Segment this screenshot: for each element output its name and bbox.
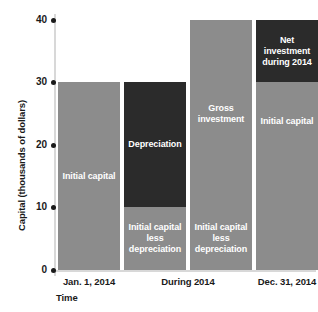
bar-initial-capital: Initial capital (58, 82, 120, 270)
segment-label-net-investment: Net investment during 2014 (258, 35, 316, 68)
segment-label-depreciation: Depreciation (126, 139, 184, 150)
x-axis-line (54, 270, 316, 272)
y-axis-title: Capital (thousands of dollars) (16, 61, 27, 271)
bar-gross-investment: Gross investment Initial capital less de… (190, 20, 252, 270)
segment-label-initial-capital: Initial capital (60, 171, 118, 182)
segment-label-gross-investment: Gross investment (192, 103, 250, 125)
bar-depreciation: Depreciation Initial capital less deprec… (124, 82, 186, 270)
y-tick-dot-10 (51, 205, 56, 210)
segment-depreciation: Depreciation (124, 82, 186, 207)
x-label-jan-1-2014: Jan. 1, 2014 (58, 276, 120, 287)
y-tick-label-10: 10 (36, 202, 47, 212)
segment-gross-investment: Gross investment (190, 20, 252, 207)
segment-net-investment: Net investment during 2014 (256, 20, 318, 82)
capital-bar-chart: Capital (thousands of dollars) 40 30 20 … (0, 0, 318, 312)
y-tick-dot-40 (51, 18, 56, 23)
y-tick-dot-0 (51, 268, 56, 273)
y-tick-30: 30 (20, 76, 56, 88)
y-tick-10: 10 (20, 201, 56, 213)
bar-net-investment: Net investment during 2014 Initial capit… (256, 20, 318, 270)
y-tick-label-30: 30 (36, 77, 47, 87)
segment-initial-capital: Initial capital (58, 82, 120, 270)
y-tick-dot-30 (51, 80, 56, 85)
x-label-during-2014: During 2014 (124, 276, 252, 287)
segment-label-initial-capital-less-depreciation-1: Initial capital less depreciation (126, 222, 184, 255)
y-tick-dot-20 (51, 143, 56, 148)
y-tick-label-0: 0 (41, 265, 47, 275)
y-tick-40: 40 (20, 14, 56, 26)
y-tick-label-20: 20 (36, 140, 47, 150)
segment-initial-capital-less-depreciation-1: Initial capital less depreciation (124, 207, 186, 270)
y-tick-20: 20 (20, 139, 56, 151)
y-tick-label-40: 40 (36, 15, 47, 25)
segment-label-initial-capital-less-depreciation-2: Initial capital less depreciation (192, 222, 250, 255)
x-axis-title: Time (56, 292, 78, 303)
x-label-dec-31-2014: Dec. 31, 2014 (256, 276, 318, 287)
segment-initial-capital-less-depreciation-2: Initial capital less depreciation (190, 207, 252, 270)
segment-initial-capital-end: Initial capital (256, 82, 318, 270)
segment-label-initial-capital-end: Initial capital (258, 116, 316, 127)
y-tick-0: 0 (20, 264, 56, 276)
